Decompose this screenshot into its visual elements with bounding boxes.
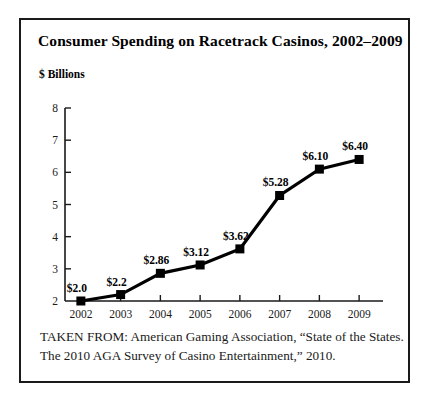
x-axis-tick-label: 2009 (348, 308, 371, 320)
data-point-label: $6.40 (342, 140, 368, 152)
y-axis-tick-label: 3 (52, 263, 58, 275)
line-chart: $ Billions234567820022003200420052006200… (21, 64, 408, 322)
data-point-marker[interactable] (116, 290, 125, 299)
data-point-label: $2.0 (67, 282, 87, 294)
data-point-label: $6.10 (302, 150, 328, 162)
data-point-label: $2.2 (107, 276, 127, 288)
data-point-marker[interactable] (196, 260, 205, 269)
y-axis-tick-label: 5 (52, 199, 58, 211)
data-point-label: $3.62 (223, 230, 249, 242)
data-point-marker[interactable] (315, 165, 324, 174)
x-axis-tick-label: 2007 (268, 308, 291, 320)
x-axis-tick-label: 2002 (69, 308, 92, 320)
data-point-label: $3.12 (183, 246, 209, 258)
data-point-marker[interactable] (235, 244, 244, 253)
chart-plot-area: $ Billions234567820022003200420052006200… (21, 64, 408, 322)
x-axis-tick-label: 2008 (308, 308, 331, 320)
y-axis-tick-label: 4 (52, 231, 58, 243)
y-axis-tick-label: 7 (52, 134, 58, 146)
data-point-label: $2.86 (143, 254, 169, 266)
source-note-line-2: The 2010 AGA Survey of Casino Entertainm… (40, 347, 394, 366)
page-title: Consumer Spending on Racetrack Casinos, … (38, 32, 403, 50)
y-axis-label: $ Billions (39, 68, 85, 80)
data-point-marker[interactable] (275, 191, 284, 200)
data-point-label: $5.28 (263, 176, 289, 188)
source-note-line-1: TAKEN FROM: American Gaming Association,… (40, 328, 394, 347)
data-point-marker[interactable] (156, 269, 165, 278)
data-point-marker[interactable] (355, 155, 364, 164)
y-axis-tick-label: 6 (52, 166, 58, 178)
data-point-marker[interactable] (76, 297, 85, 306)
x-axis-tick-label: 2006 (228, 308, 251, 320)
figure-frame: Consumer Spending on Racetrack Casinos, … (19, 18, 410, 383)
x-axis-tick-label: 2003 (109, 308, 132, 320)
x-axis-tick-label: 2005 (189, 308, 212, 320)
y-axis-tick-label: 8 (52, 102, 58, 114)
x-axis-tick-label: 2004 (149, 308, 172, 320)
y-axis-tick-label: 2 (52, 295, 58, 307)
source-note: TAKEN FROM: American Gaming Association,… (40, 328, 394, 365)
